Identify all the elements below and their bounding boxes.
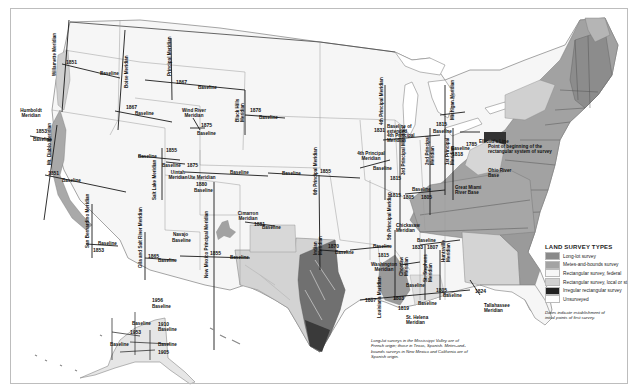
label-point-of-beginning: Point of beginning of the rectangular sy… [488, 145, 558, 154]
legend-label: Rectangular survey, federal [563, 271, 621, 276]
legend-label: Metes-and-bounds survey [563, 262, 618, 267]
legend-item-metes-bounds: Metes-and-bounds survey [545, 261, 635, 270]
label-baseline: Baseline [418, 302, 437, 307]
label-washington-meridian: Washington Meridian [370, 263, 398, 272]
legend-swatch-icon [545, 261, 560, 269]
label-boise-meridian: Boise Meridian [125, 55, 130, 88]
legend-item-rectangular-federal: Rectangular survey, federal [545, 269, 635, 278]
legend-label: Long-lot survey [563, 254, 596, 259]
label-gila-salt-river-meridian: Gila and Salt River Meridian [139, 207, 144, 268]
legend-title: LAND SURVEY TYPES [545, 244, 635, 250]
legend-swatch-icon [545, 252, 560, 260]
label-baseline: Baseline [152, 305, 171, 310]
year-1853: 1853 [36, 129, 47, 134]
legend-label: Irregular rectangular survey [563, 288, 622, 293]
label-baseline: Baseline [100, 72, 119, 77]
label-choctaw-meridian: Choctaw Meridian [400, 257, 409, 276]
label-tallahassee-meridian: Tallahassee Meridian [484, 304, 514, 313]
label-wind-river-meridian: Wind River Meridian [178, 109, 210, 118]
label-baseline: Baseline [162, 164, 181, 169]
label-baseline: Baseline [373, 245, 392, 250]
year-1867: 1867 [126, 105, 137, 110]
label-baseline: Baseline [335, 251, 354, 256]
label-humboldt-meridian: Humboldt Meridian [18, 109, 44, 118]
legend-swatch-icon [545, 287, 560, 295]
map-caption: Long-lot surveys in the Mississippi Vall… [371, 338, 471, 360]
label-baseline: Baseline [197, 132, 216, 137]
label-michigan-meridian: Michigan Meridian [451, 80, 456, 120]
label-baseline: Baseline [158, 328, 177, 333]
label-black-hills-meridian: Black Hills Meridian [236, 99, 245, 122]
year-1956: 1956 [152, 298, 163, 303]
label-baseline: Baseline [132, 322, 151, 327]
label-baseline: Baseline [417, 239, 436, 244]
legend-swatch-icon [545, 269, 560, 277]
label-chickasaw-meridian: Chickasaw Meridian [396, 224, 424, 233]
year-1851: 1851 [66, 60, 77, 65]
label-willamette-meridian: Willamette Meridian [53, 33, 58, 76]
label-4th-principal-meridian: 4th Principal Meridian [380, 77, 385, 125]
legend-item-long-lot: Long-lot survey [545, 252, 635, 261]
legend-label: Unsurveyed [563, 297, 589, 302]
label-baseline: Baseline [135, 112, 154, 117]
label-new-mexico-principal-meridian: New Mexico Principal Meridian [205, 211, 210, 278]
label-louisiana-meridian: Louisiana Meridian [378, 276, 383, 318]
map-frame [10, 8, 628, 384]
label-baseline-extended-4th: Baseline of extended 4th Principal Merid… [387, 125, 427, 143]
label-baseline: Baseline [433, 130, 452, 135]
year-1853: 1853 [93, 248, 104, 253]
year-1851: 1851 [48, 171, 59, 176]
label-4th-principal-meridian-south: 4th Principal Meridian [357, 152, 385, 161]
label-baseline: Baseline [443, 294, 462, 299]
year-1867: 1867 [176, 80, 187, 85]
label-baseline: Baseline [158, 343, 177, 348]
legend: LAND SURVEY TYPES Long-lot survey Metes-… [545, 244, 635, 320]
year-1875: 1875 [201, 123, 212, 128]
label-huntsville-meridian: Huntsville Meridian [442, 240, 451, 262]
label-mt-diablo-meridian: Mt. Diablo Meridian [48, 123, 53, 165]
year-1805: 1805 [403, 195, 414, 200]
legend-item-unsurveyed: Unsurveyed [545, 295, 635, 304]
legend-item-rectangular-local: Rectangular survey, local or st [545, 278, 635, 287]
year-1878: 1878 [250, 108, 261, 113]
label-baseline: Baseline [412, 188, 431, 193]
label-baseline: Baseline [198, 86, 217, 91]
label-st-stephens-meridian: St. Stephens Meridian [424, 254, 433, 282]
label-san-bernardino-meridian: San Bernardino Meridian [86, 194, 91, 248]
year-1905: 1905 [158, 350, 169, 355]
label-navajo: Navajo [173, 233, 188, 238]
year-1785: 1785 [466, 142, 477, 147]
label-cimarron-meridian: Cimarron Meridian [234, 212, 262, 221]
label-baseline: Baseline [373, 167, 392, 172]
land-survey-map: Willamette Meridian 1851 Baseline Humbol… [0, 0, 636, 392]
label-baseline: Baseline [262, 226, 281, 231]
year-1953: 1953 [130, 330, 141, 335]
year-1831: 1831 [374, 128, 385, 133]
year-1819: 1819 [398, 306, 409, 311]
label-baseline: Baseline [406, 284, 425, 289]
label-ute-meridian: Ute Meridian [188, 176, 216, 181]
year-1805: 1805 [421, 195, 432, 200]
year-1818: 1818 [452, 152, 463, 157]
year-1815: 1815 [378, 253, 389, 258]
label-baseline: Baseline [158, 259, 177, 264]
legend-item-irregular-rectangular: Irregular rectangular survey [545, 286, 635, 295]
label-baseline: Baseline [62, 179, 81, 184]
year-1880: 1880 [196, 182, 207, 187]
year-1803: 1803 [393, 296, 404, 301]
year-1807: 1807 [427, 245, 438, 250]
label-indian-meridian: Indian Meridian [314, 236, 323, 255]
year-1855: 1855 [166, 148, 177, 153]
label-st-helena-meridian: St. Helena Meridian [406, 316, 434, 325]
year-1855: 1855 [210, 251, 221, 256]
label-baseline: Baseline [110, 343, 129, 348]
label-great-miami-river-base: Great Miami River Base [455, 186, 485, 195]
year-1870: 1870 [328, 244, 339, 249]
label-2nd-principal-meridian: 2nd Principal Meridian [426, 136, 435, 165]
label-baseline: Baseline [282, 172, 301, 177]
label-principal-meridian: Principal Meridian [168, 36, 173, 76]
label-baseline: Baseline [259, 116, 278, 121]
legend-label: Rectangular survey, local or st [563, 280, 627, 285]
label-uintah-meridian: Uintah Meridian [166, 171, 190, 180]
label-ohio-river-base: Ohio River Base [488, 169, 512, 178]
